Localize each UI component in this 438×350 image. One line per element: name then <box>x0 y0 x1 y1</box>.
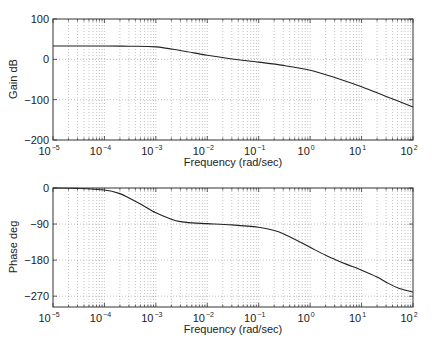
y-tick-label: 100 <box>31 13 49 25</box>
phase-ticks <box>53 188 413 307</box>
x-tick-label: 10−5 <box>38 311 59 324</box>
x-tick-label: 10−4 <box>90 311 111 324</box>
x-tick-label: 100 <box>298 311 315 324</box>
y-tick-label: −90 <box>30 218 49 230</box>
y-tick-label: 0 <box>43 53 49 65</box>
y-tick-label: −270 <box>24 290 49 302</box>
phase-axes: 10−510−410−310−210−1100101102 0−90−180−2… <box>7 182 418 335</box>
x-tick-label: 102 <box>400 311 417 324</box>
gain-y-tick-labels: 1000−100−200 <box>24 13 49 146</box>
x-tick-label: 10−3 <box>141 311 162 324</box>
y-tick-label: −100 <box>24 94 49 106</box>
y-tick-label: −200 <box>24 134 49 146</box>
gain-y-axis-label: Gain dB <box>7 59 19 99</box>
gain-axes: 10−510−410−310−210−1100101102 1000−100−2… <box>7 13 418 168</box>
y-tick-label: 0 <box>43 182 49 194</box>
x-tick-label: 102 <box>400 144 417 157</box>
phase-y-axis-label: Phase deg <box>7 221 19 274</box>
phase-grid <box>53 188 413 307</box>
phase-axes-frame <box>53 188 413 307</box>
x-tick-label: 10−4 <box>90 144 111 157</box>
y-tick-label: −180 <box>24 254 49 266</box>
x-tick-label: 100 <box>298 144 315 157</box>
x-tick-label: 101 <box>349 144 366 157</box>
gain-grid <box>53 19 413 140</box>
x-tick-label: 10−3 <box>141 144 162 157</box>
bode-plot-figure: 10−510−410−310−210−1100101102 1000−100−2… <box>0 0 438 350</box>
phase-y-tick-labels: 0−90−180−270 <box>24 182 49 302</box>
bode-plot-canvas: 10−510−410−310−210−1100101102 1000−100−2… <box>0 0 438 350</box>
x-tick-label: 101 <box>349 311 366 324</box>
phase-x-axis-label: Frequency (rad/sec) <box>184 323 282 335</box>
gain-x-axis-label: Frequency (rad/sec) <box>184 156 282 168</box>
